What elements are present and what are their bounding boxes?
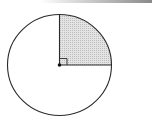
shaded-quarter-sector	[60, 15, 112, 66]
circle-diagram	[0, 0, 152, 123]
center-dot	[58, 63, 62, 67]
